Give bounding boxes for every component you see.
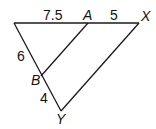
length-label-ax: 5	[110, 7, 118, 23]
geometry-diagram: 7.5 A 5 X 6 B 4 Y	[0, 0, 156, 129]
length-label-vb: 6	[17, 48, 25, 64]
point-label-y: Y	[56, 111, 67, 127]
point-label-a: A	[82, 7, 92, 23]
length-label-va: 7.5	[43, 7, 63, 23]
segment-xy	[61, 23, 139, 111]
point-label-b: B	[31, 72, 40, 88]
point-label-x: X	[140, 8, 151, 24]
segment-vy	[14, 23, 61, 111]
length-label-by: 4	[40, 90, 48, 106]
segment-ab	[41, 23, 88, 76]
